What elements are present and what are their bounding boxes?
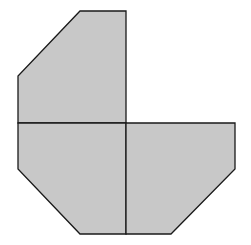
bottom-right-piece — [126, 123, 235, 234]
geometry-diagram — [0, 0, 251, 245]
top-left-piece — [18, 11, 126, 123]
bottom-left-piece — [18, 123, 126, 234]
